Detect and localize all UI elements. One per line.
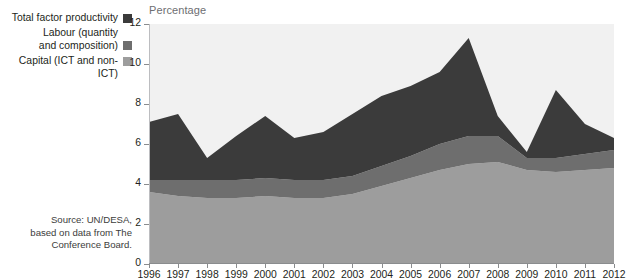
chart-legend: Total factor productivity Labour (quanti… — [0, 12, 132, 83]
x-axis-tick — [556, 264, 557, 268]
x-axis-tick-label: 2002 — [312, 269, 335, 280]
x-axis-tick — [498, 264, 499, 268]
x-axis-tick — [382, 264, 383, 268]
x-axis-tick-label: 2011 — [574, 269, 596, 280]
chart-axis-title: Percentage — [149, 4, 206, 16]
x-axis-tick-label: 2009 — [515, 269, 538, 280]
x-axis-tick-label: 2012 — [602, 269, 625, 280]
x-axis-tick — [323, 264, 324, 268]
x-axis-tick — [585, 264, 586, 268]
y-axis-tick-label: 8 — [135, 97, 141, 108]
x-axis-tick — [207, 264, 208, 268]
x-axis-tick — [265, 264, 266, 268]
x-axis-tick — [294, 264, 295, 268]
y-axis-tick: 2 — [144, 224, 149, 225]
x-axis-tick-label: 1996 — [137, 269, 160, 280]
y-axis-tick-label: 6 — [135, 137, 141, 148]
x-axis-tick — [411, 264, 412, 268]
y-axis-tick-label: 0 — [135, 257, 141, 268]
legend-item-total-factor-productivity: Total factor productivity — [0, 12, 132, 24]
x-axis-tick — [149, 264, 150, 268]
chart-area: Percentage 024681012 1996199719981999200… — [136, 0, 614, 280]
y-axis-tick: 10 — [144, 64, 149, 65]
y-axis-tick: 8 — [144, 104, 149, 105]
y-axis-tick: 6 — [144, 144, 149, 145]
x-axis-tick — [469, 264, 470, 268]
legend-item-capital: Capital (ICT and non-ICT) — [0, 55, 132, 80]
legend-item-label: Capital (ICT and non-ICT) — [0, 55, 123, 80]
legend-item-label: Total factor productivity — [12, 12, 123, 24]
x-axis-tick-label: 2004 — [370, 269, 393, 280]
legend-item-labour: Labour (quantity and composition) — [0, 27, 132, 52]
chart-plot: 024681012 199619971998199920002001200220… — [149, 24, 614, 264]
x-axis-tick-label: 2010 — [544, 269, 567, 280]
x-axis-tick-label: 2000 — [254, 269, 277, 280]
x-axis-tick-label: 2001 — [283, 269, 306, 280]
x-axis-tick-label: 2005 — [399, 269, 422, 280]
x-axis-tick-label: 2006 — [428, 269, 451, 280]
x-axis-tick — [178, 264, 179, 268]
stacked-area-paths — [149, 24, 614, 264]
x-axis-tick-label: 1997 — [167, 269, 190, 280]
x-axis-tick — [352, 264, 353, 268]
x-axis-tick-label: 2003 — [341, 269, 364, 280]
y-axis-tick: 12 — [144, 24, 149, 25]
y-axis-tick: 4 — [144, 184, 149, 185]
x-axis-tick — [527, 264, 528, 268]
y-axis-line — [149, 24, 150, 264]
x-axis-tick-label: 2007 — [457, 269, 480, 280]
x-axis-tick — [614, 264, 615, 268]
y-axis-tick-label: 2 — [135, 217, 141, 228]
legend-swatch-icon — [123, 41, 132, 50]
legend-item-label: Labour (quantity and composition) — [39, 27, 123, 52]
y-axis-tick-label: 10 — [129, 57, 141, 68]
y-axis-tick-label: 12 — [129, 17, 141, 28]
x-axis-tick — [440, 264, 441, 268]
x-axis-tick-label: 1998 — [196, 269, 219, 280]
source-note: Source: UN/DESA, based on data from The … — [0, 214, 132, 252]
x-axis-tick-label: 2008 — [486, 269, 509, 280]
x-axis-tick — [236, 264, 237, 268]
x-axis-tick-label: 1999 — [225, 269, 248, 280]
y-axis-tick-label: 4 — [135, 177, 141, 188]
